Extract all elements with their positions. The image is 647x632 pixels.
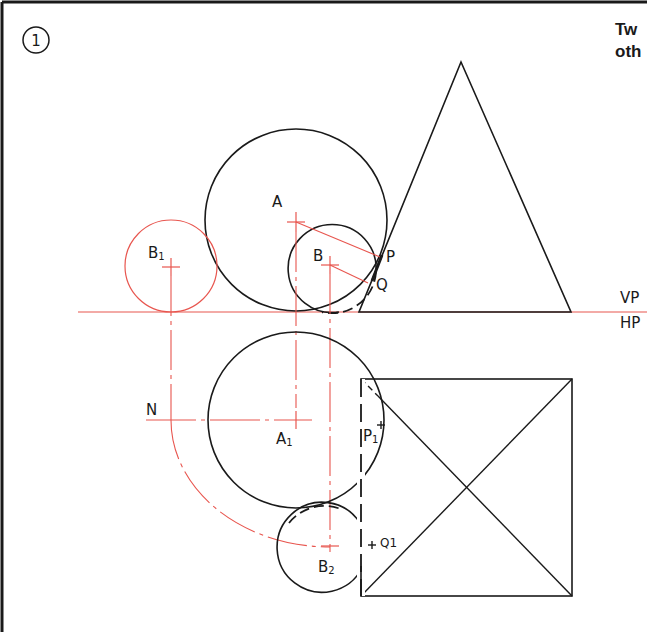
label-b2: B2 xyxy=(318,558,335,576)
figure-number: 1 xyxy=(31,32,41,50)
label-a1: A1 xyxy=(276,430,293,448)
sphere-b-plan xyxy=(277,502,362,592)
page-border xyxy=(2,2,647,632)
vp-label: VP xyxy=(620,289,639,307)
radius-b-to-q xyxy=(330,265,368,283)
label-q1: Q1 xyxy=(380,536,397,550)
rotation-arc-n-to-b2 xyxy=(171,420,330,547)
drawing-frame: 1 Tw oth VP HP A B P Q B1 N A1 xyxy=(0,0,647,632)
cone-elevation xyxy=(359,62,571,312)
title-line-1: Tw xyxy=(615,20,638,39)
label-a: A xyxy=(272,193,283,211)
hp-label: HP xyxy=(620,314,640,332)
label-q: Q xyxy=(376,276,388,294)
title-line-2: oth xyxy=(615,42,641,61)
orthographic-projection-drawing: 1 Tw oth VP HP A B P Q B1 N A1 xyxy=(0,0,647,632)
plan-diagonal-1 xyxy=(378,396,572,596)
label-p: P xyxy=(386,248,395,266)
label-b1: B1 xyxy=(148,244,165,262)
label-n: N xyxy=(146,401,157,419)
figure-number-badge: 1 xyxy=(23,27,49,53)
label-b: B xyxy=(313,247,323,265)
label-p1: P1 xyxy=(363,427,378,445)
radius-a-to-p xyxy=(296,222,380,257)
